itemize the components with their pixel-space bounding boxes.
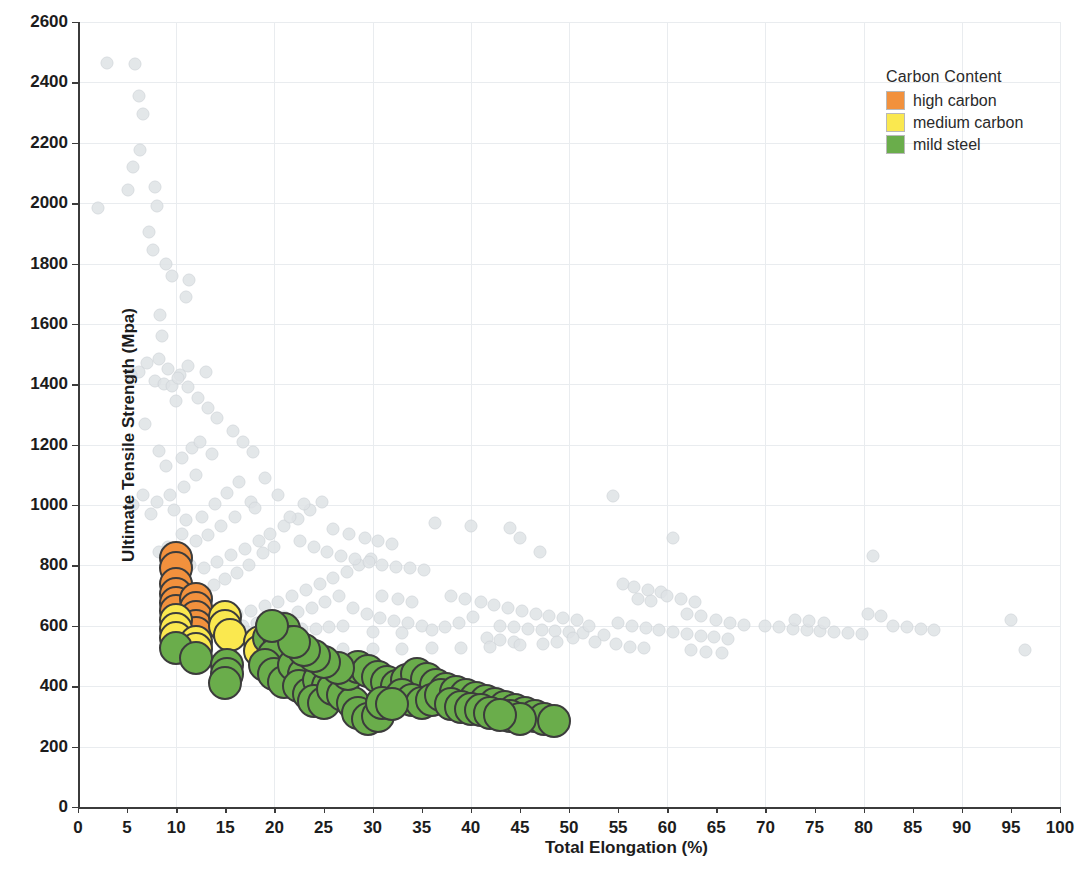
- x-tick-mark: [765, 807, 766, 813]
- x-tick-label: 5: [122, 818, 131, 838]
- data-point-mild: [179, 641, 213, 675]
- data-point-background: [150, 200, 163, 213]
- data-point-background: [221, 487, 234, 500]
- data-point-background: [529, 607, 542, 620]
- y-tick-label: 2200: [30, 133, 68, 153]
- y-tick-mark: [72, 82, 78, 83]
- data-point-background: [521, 622, 534, 635]
- legend-entries: high carbonmedium carbonmild steel: [886, 91, 1061, 154]
- legend-item-medium[interactable]: medium carbon: [886, 113, 1061, 132]
- data-point-background: [557, 612, 570, 625]
- chart-screenshot: 0200400600800100012001400160018002000220…: [0, 0, 1083, 869]
- data-point-background: [180, 290, 193, 303]
- data-point-background: [445, 589, 458, 602]
- data-point-background: [533, 545, 546, 558]
- data-point-background: [315, 496, 328, 509]
- data-point-background: [138, 417, 151, 430]
- data-point-background: [337, 619, 350, 632]
- x-tick-mark: [78, 807, 79, 813]
- gridline-horizontal: [78, 747, 1060, 748]
- data-point-background: [101, 56, 114, 69]
- data-point-background: [258, 471, 271, 484]
- y-tick-mark: [72, 747, 78, 748]
- y-tick-mark: [72, 626, 78, 627]
- data-point-background: [403, 562, 416, 575]
- data-point-background: [284, 511, 297, 524]
- x-tick-mark: [520, 807, 521, 813]
- y-tick-mark: [72, 143, 78, 144]
- data-point-background: [610, 637, 623, 650]
- data-point-background: [667, 626, 680, 639]
- data-point-background: [582, 619, 595, 632]
- data-point-background: [333, 589, 346, 602]
- x-tick-label: 65: [707, 818, 726, 838]
- data-point-background: [453, 616, 466, 629]
- data-point-background: [828, 626, 841, 639]
- data-point-background: [386, 538, 399, 551]
- y-tick-label: 1200: [30, 435, 68, 455]
- data-point-background: [454, 641, 467, 654]
- data-point-background: [244, 604, 257, 617]
- data-point-background: [716, 647, 729, 660]
- data-point-background: [136, 108, 149, 121]
- data-point-background: [513, 639, 526, 652]
- data-point-background: [154, 308, 167, 321]
- x-tick-mark: [864, 807, 865, 813]
- data-point-background: [256, 547, 269, 560]
- data-point-background: [229, 511, 242, 524]
- y-tick-label: 800: [40, 555, 68, 575]
- data-point-background: [627, 580, 640, 593]
- legend-label-high: high carbon: [913, 92, 997, 110]
- data-point-background: [494, 619, 507, 632]
- data-point-background: [439, 621, 452, 634]
- data-point-background: [272, 488, 285, 501]
- y-tick-label: 1400: [30, 374, 68, 394]
- data-point-background: [164, 488, 177, 501]
- x-tick-mark: [422, 807, 423, 813]
- data-point-background: [148, 180, 161, 193]
- x-tick-label: 45: [510, 818, 529, 838]
- data-point-background: [242, 559, 255, 572]
- x-tick-label: 15: [216, 818, 235, 838]
- legend-title: Carbon Content: [886, 68, 1061, 86]
- data-point-background: [612, 616, 625, 629]
- data-point-background: [515, 604, 528, 617]
- gridline-horizontal: [78, 505, 1060, 506]
- data-point-background: [286, 589, 299, 602]
- data-point-background: [900, 621, 913, 634]
- data-point-background: [272, 595, 285, 608]
- legend-swatch-high: [886, 91, 905, 110]
- x-tick-mark: [274, 807, 275, 813]
- x-tick-mark: [176, 807, 177, 813]
- data-point-background: [178, 480, 191, 493]
- x-tick-label: 95: [1001, 818, 1020, 838]
- legend-item-high[interactable]: high carbon: [886, 91, 1061, 110]
- data-point-background: [645, 595, 658, 608]
- legend-item-mild[interactable]: mild steel: [886, 135, 1061, 154]
- x-tick-label: 80: [854, 818, 873, 838]
- data-point-background: [724, 616, 737, 629]
- x-tick-label: 40: [461, 818, 480, 838]
- data-point-background: [142, 225, 155, 238]
- data-point-background: [396, 642, 409, 655]
- x-tick-mark: [324, 807, 325, 813]
- data-point-background: [176, 452, 189, 465]
- data-point-background: [321, 545, 334, 558]
- y-tick-label: 1800: [30, 254, 68, 274]
- data-point-background: [215, 520, 228, 533]
- data-point-background: [551, 635, 564, 648]
- data-point-mild: [375, 687, 409, 721]
- data-point-background: [392, 592, 405, 605]
- data-point-background: [211, 411, 224, 424]
- data-point-background: [248, 502, 261, 515]
- y-axis-title: Ultimate Tensile Strength (Mpa): [119, 308, 139, 562]
- y-tick-label: 1600: [30, 314, 68, 334]
- data-point-background: [773, 621, 786, 634]
- data-point-background: [504, 521, 517, 534]
- data-point-background: [684, 644, 697, 657]
- data-point-background: [396, 627, 409, 640]
- gridline-horizontal: [78, 445, 1060, 446]
- x-tick-mark: [1011, 807, 1012, 813]
- data-point-background: [162, 363, 175, 376]
- data-point-background: [313, 577, 326, 590]
